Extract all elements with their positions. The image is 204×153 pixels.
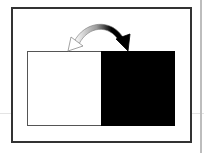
edge-strip — [200, 0, 202, 153]
curved-double-arrow-icon — [60, 15, 140, 55]
left-white-panel — [27, 51, 101, 126]
right-black-panel — [101, 51, 175, 126]
